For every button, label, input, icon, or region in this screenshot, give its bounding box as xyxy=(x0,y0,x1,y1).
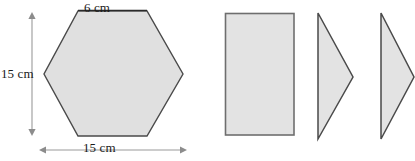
rectangle-shape xyxy=(226,14,295,136)
arrow-left-icon xyxy=(39,147,46,154)
dimension-label-left: 15 cm xyxy=(1,66,34,82)
figure-canvas: 6 cm 15 cm 15 cm xyxy=(0,0,415,161)
arrow-down-icon xyxy=(28,129,35,136)
triangle-shape-1 xyxy=(318,13,353,139)
arrow-up-icon xyxy=(28,12,35,19)
hexagon-shape xyxy=(44,11,183,136)
arrow-right-icon xyxy=(180,147,187,154)
dimension-label-top: 6 cm xyxy=(84,0,110,16)
geometry-diagram xyxy=(0,0,415,161)
dimension-label-bottom: 15 cm xyxy=(83,140,116,156)
triangle-shape-2 xyxy=(381,13,414,139)
